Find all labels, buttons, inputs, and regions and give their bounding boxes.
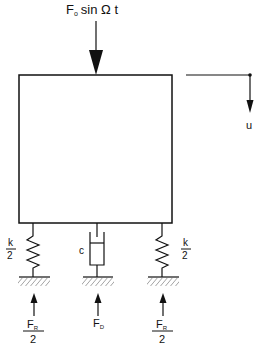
excitation-label: Fosin Ω t [66, 2, 118, 17]
excitation-arrow-icon [89, 21, 103, 75]
right-reaction-label: FR 2 [152, 318, 173, 345]
svg-text:2: 2 [182, 250, 188, 261]
right-spring-icon [148, 223, 179, 277]
left-spring-icon [19, 223, 50, 277]
left-reaction-arrow-icon [31, 293, 38, 316]
left-spring-stiffness-label: k 2 [6, 237, 16, 261]
right-reaction-arrow-icon [160, 293, 167, 316]
displacement-label: u [246, 119, 252, 131]
center-reaction-label: FD [93, 317, 105, 330]
svg-text:k: k [183, 237, 189, 248]
svg-text:2: 2 [159, 333, 165, 345]
center-reaction-arrow-icon [95, 293, 102, 316]
displacement-indicator [186, 73, 254, 113]
left-ground-hatch [18, 278, 50, 286]
right-ground-hatch [147, 278, 179, 286]
mass-spring-damper-diagram: Fosin Ω t u k 2 c [0, 0, 263, 349]
svg-text:2: 2 [7, 250, 13, 261]
left-reaction-label: FR 2 [23, 318, 44, 345]
svg-text:k: k [8, 237, 14, 248]
down-arrow-icon [247, 100, 254, 113]
damper-label: c [79, 245, 84, 256]
right-spring-stiffness-label: k 2 [181, 237, 191, 261]
mass-block [19, 75, 172, 223]
svg-text:FR: FR [27, 318, 39, 331]
center-ground-hatch [82, 278, 114, 286]
svg-text:FR: FR [156, 318, 168, 331]
svg-text:2: 2 [30, 333, 36, 345]
damper-icon [83, 223, 113, 277]
